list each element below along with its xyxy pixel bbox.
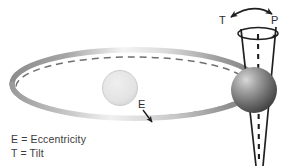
eccentricity-label: E xyxy=(138,98,145,110)
orbital-diagram: T P E E = Eccentricity T = Tilt xyxy=(0,0,284,168)
tilt-label: T xyxy=(219,14,226,26)
tilt-arc-arrow xyxy=(231,9,272,17)
planet-sphere xyxy=(231,67,277,113)
legend: E = Eccentricity T = Tilt xyxy=(11,133,161,160)
precession-label: P xyxy=(271,14,278,26)
sun xyxy=(103,71,138,106)
legend-item-eccentricity: E = Eccentricity xyxy=(11,133,161,147)
legend-item-tilt: T = Tilt xyxy=(11,147,161,161)
